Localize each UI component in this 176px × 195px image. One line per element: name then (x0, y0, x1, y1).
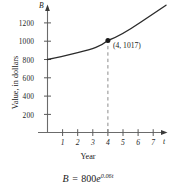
x-tick-label-2: 2 (73, 138, 83, 147)
point-label-text: (4, 1017) (113, 41, 141, 50)
y-tick-label-1200: 1200 (8, 19, 34, 28)
x-tick-label-6: 6 (133, 138, 143, 147)
data-point-marker (105, 38, 110, 43)
x-axis (38, 130, 168, 135)
exponential-growth-chart: 1200 1000 800 600 400 200 1 2 3 4 5 6 7 … (0, 0, 176, 195)
x-tick-label-1: 1 (58, 138, 68, 147)
y-axis-variable-label: B (39, 1, 44, 10)
x-axis-title: Year (58, 152, 118, 161)
y-axis (45, 5, 50, 134)
data-point-label: (4, 1017) (113, 41, 141, 50)
x-tick-label-7: 7 (148, 138, 158, 147)
x-tick-label-3: 3 (88, 138, 98, 147)
x-tick-label-4: 4 (103, 138, 113, 147)
equation-coefficient: 800 (81, 173, 96, 184)
x-tick-label-5: 5 (118, 138, 128, 147)
y-axis-title: Value, in dollars (11, 33, 20, 133)
equation-caption: B = 800e0.06t (0, 172, 176, 184)
equation-exponent: 0.06t (101, 172, 114, 179)
exponential-curve (48, 5, 167, 59)
x-axis-variable-label: t (163, 137, 165, 146)
